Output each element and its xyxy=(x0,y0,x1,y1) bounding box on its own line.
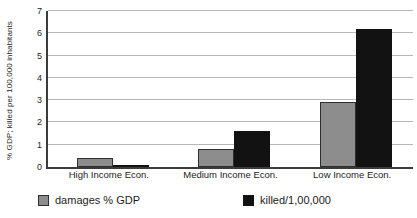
bar-chart: % GDP; killed per 100,000 inhabitants 01… xyxy=(0,0,417,218)
y-axis-tick-label: 3 xyxy=(28,96,42,105)
x-axis-category-label: High Income Econ. xyxy=(48,169,170,180)
x-axis-category-label: Medium Income Econ. xyxy=(170,169,292,180)
y-axis-tick-label: 4 xyxy=(28,74,42,83)
y-axis-tick-label: 2 xyxy=(28,118,42,127)
y-axis-tick-label: 0 xyxy=(28,163,42,172)
y-axis-title: % GDP; killed per 100,000 inhabitants xyxy=(0,0,18,180)
legend-label-killed: killed/1,00,000 xyxy=(260,194,331,206)
y-axis-tick-label: 6 xyxy=(28,29,42,38)
legend-label-damages: damages % GDP xyxy=(55,194,140,206)
legend-item-killed: killed/1,00,000 xyxy=(243,194,331,206)
legend-swatch-damages-icon xyxy=(38,195,49,206)
legend-item-damages: damages % GDP xyxy=(38,194,140,206)
bar-killed xyxy=(234,131,270,167)
x-axis-category-labels: High Income Econ.Medium Income Econ.Low … xyxy=(48,169,411,185)
bar-group xyxy=(48,11,170,167)
bar-damages xyxy=(198,149,234,167)
bar-killed xyxy=(113,165,149,167)
x-axis-category-label: Low Income Econ. xyxy=(291,169,413,180)
y-axis-tick-labels: 01234567 xyxy=(26,11,42,167)
y-axis-tick-label: 1 xyxy=(28,141,42,150)
chart-legend: damages % GDP killed/1,00,000 xyxy=(0,192,417,214)
bar-group xyxy=(291,11,413,167)
bar-damages xyxy=(77,158,113,167)
y-axis-title-text: % GDP; killed per 100,000 inhabitants xyxy=(5,21,14,160)
y-axis-tick-label: 5 xyxy=(28,52,42,61)
bar-damages xyxy=(320,102,356,167)
legend-swatch-killed-icon xyxy=(243,195,254,206)
bar-group xyxy=(170,11,292,167)
y-axis-tick-label: 7 xyxy=(28,7,42,16)
bar-killed xyxy=(356,29,392,167)
bars-layer xyxy=(48,11,411,167)
